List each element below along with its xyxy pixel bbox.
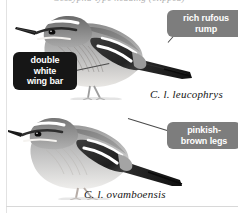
callout-double-white-wing-bar: double white wing bar	[13, 52, 77, 90]
legs	[88, 86, 100, 98]
callout-rich-rufous-rump: rich rufous rump	[167, 10, 238, 37]
field-guide-plate: Cossypha-type heading (clipped)	[0, 0, 238, 213]
plate-heading: Cossypha-type heading (clipped)	[0, 0, 238, 3]
eye	[49, 29, 56, 34]
page-rule-horizontal	[6, 206, 238, 207]
page-rule-vertical	[6, 0, 7, 213]
bird-illustration-ovamboensis	[8, 104, 194, 200]
callout-pinkish-brown-legs: pinkish- brown legs	[167, 122, 238, 149]
species-caption-leucophrys: C. l. leucophrys	[150, 88, 223, 100]
species-caption-ovamboensis: C. l. ovamboensis	[84, 188, 166, 200]
eye	[35, 131, 42, 136]
